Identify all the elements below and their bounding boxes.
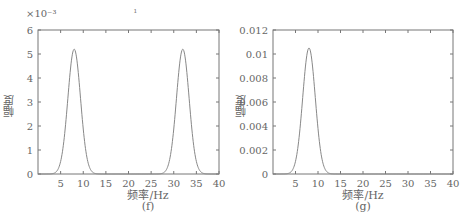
x-tick-label: 35 xyxy=(424,178,437,189)
y-tick-label: 3 xyxy=(27,97,33,108)
caption-g: (g) xyxy=(313,200,413,213)
y-tick-label: 0.012 xyxy=(239,25,268,36)
y-tick-label: 4 xyxy=(27,73,33,84)
y-axis-label-f: 幅度 xyxy=(2,95,16,117)
x-tick-label: 5 xyxy=(57,178,63,189)
stray-mark: ı xyxy=(134,6,137,15)
plot-f: 5101520253035400123456 xyxy=(27,25,226,190)
y-tick-label: 0.004 xyxy=(239,121,268,132)
y-tick-label: 1 xyxy=(27,145,33,156)
y-tick-label: 0 xyxy=(262,169,268,180)
y-tick-label: 2 xyxy=(27,121,33,132)
caption-f: (f) xyxy=(98,200,198,213)
y-axis-label-g: 幅度 xyxy=(234,95,248,117)
y-tick-label: 5 xyxy=(27,49,33,60)
y-tick-label: 0.01 xyxy=(246,49,268,60)
y-tick-label: 6 xyxy=(27,25,33,36)
x-tick-label: 5 xyxy=(292,178,298,189)
spectrum-line xyxy=(273,48,453,174)
spectrum-line xyxy=(38,49,219,174)
plot-frame xyxy=(38,30,219,174)
y-tick-label: 0.002 xyxy=(239,145,268,156)
x-tick-label: 40 xyxy=(213,178,226,189)
plot-frame xyxy=(273,30,453,174)
plot-g: 51015202530354000.0020.0040.0060.0080.01… xyxy=(239,25,459,190)
y-multiplier-label: ×10⁻³ xyxy=(26,8,56,19)
x-tick-label: 10 xyxy=(77,178,90,189)
y-tick-label: 0 xyxy=(27,169,33,180)
x-tick-label: 40 xyxy=(447,178,460,189)
y-tick-label: 0.008 xyxy=(239,73,268,84)
